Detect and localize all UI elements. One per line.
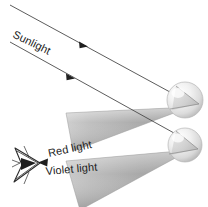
observer-eye [12, 146, 40, 184]
diagram-canvas: Sunlight Red light Violet light [0, 0, 208, 207]
sunlight-ray-upper [10, 5, 192, 104]
label-sunlight: Sunlight [11, 28, 53, 57]
raindrop-upper-highlight [172, 88, 185, 98]
optics-diagram-figure: Sunlight Red light Violet light [0, 0, 208, 207]
eye-corner [12, 160, 20, 167]
label-red-light: Red light [47, 138, 93, 159]
raindrop-lower [168, 128, 202, 162]
raindrop-upper [167, 82, 203, 118]
raindrop-lower-highlight [172, 133, 184, 142]
violet-light-cone [66, 150, 190, 207]
